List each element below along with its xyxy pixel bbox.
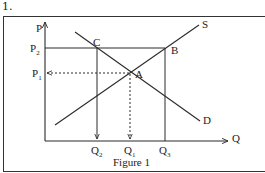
- p2-label: P2: [30, 42, 40, 57]
- point-c-label: C: [93, 36, 100, 48]
- point-b-label: B: [171, 44, 178, 56]
- q3-label: Q3: [159, 144, 171, 159]
- p1-label: P1: [32, 67, 42, 82]
- supply-demand-diagram: P Q P2 P1 Q2 Q1 Q3 C B A S D Figure 1: [0, 0, 265, 173]
- demand-label: D: [203, 114, 211, 126]
- y-axis-label: P: [36, 22, 42, 34]
- point-a-label: A: [135, 68, 143, 80]
- supply-label: S: [202, 18, 208, 30]
- figure-caption: Figure 1: [113, 156, 150, 168]
- q2-label: Q2: [91, 144, 103, 159]
- supply-curve: [55, 25, 199, 125]
- x-axis-label: Q: [232, 132, 240, 144]
